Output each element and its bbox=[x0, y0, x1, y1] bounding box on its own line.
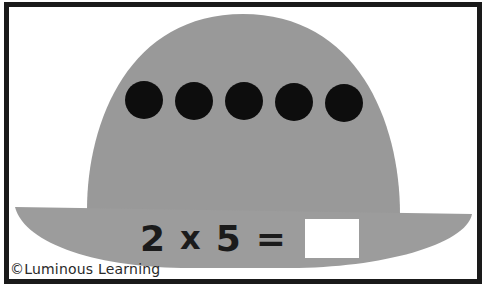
dot-icon bbox=[225, 82, 263, 120]
dot-icon bbox=[325, 84, 363, 122]
answer-input[interactable] bbox=[305, 219, 359, 258]
dot-icon bbox=[125, 81, 163, 119]
multiplication-equation: 2 x 5 = bbox=[140, 216, 359, 260]
equals-sign: = bbox=[256, 218, 287, 259]
factor-b: 5 bbox=[216, 218, 242, 259]
factor-a: 2 bbox=[140, 218, 166, 259]
dot-icon bbox=[175, 82, 213, 120]
multiply-operator: x bbox=[180, 219, 202, 257]
dot-icon bbox=[275, 83, 313, 121]
copyright-text: ©Luminous Learning bbox=[10, 261, 160, 277]
